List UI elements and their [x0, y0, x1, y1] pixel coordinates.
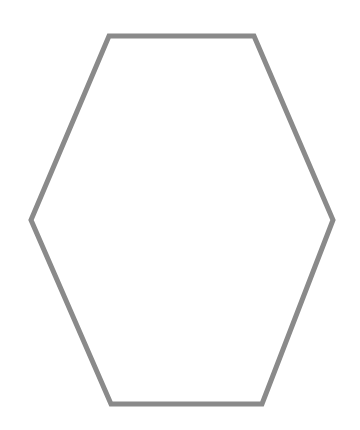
diagram-canvas — [0, 0, 360, 430]
hexagon-outline — [31, 36, 333, 404]
